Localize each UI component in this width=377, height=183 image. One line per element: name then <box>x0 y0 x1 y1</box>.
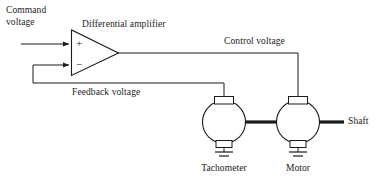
feedback-voltage-label: Feedback voltage <box>72 87 140 99</box>
tachometer-top-terminal <box>215 97 234 105</box>
diagram-canvas: Command voltage Differential amplifier C… <box>0 0 377 183</box>
motor-bottom-terminal <box>290 141 306 148</box>
differential-amplifier-label: Differential amplifier <box>82 19 166 31</box>
command-voltage-label-line2: voltage <box>6 17 35 27</box>
command-voltage-label-line1: Command <box>6 5 46 15</box>
control-voltage-label: Control voltage <box>224 36 285 48</box>
motor-body <box>277 101 320 144</box>
motor-label: Motor <box>286 163 310 175</box>
block-diagram-svg <box>0 0 377 183</box>
tachometer-bottom-terminal <box>216 141 232 148</box>
command-voltage-label: Command voltage <box>6 5 46 28</box>
feedback-voltage-wire <box>33 65 224 83</box>
tachometer-body <box>203 101 246 144</box>
control-voltage-wire <box>119 53 299 100</box>
tachometer-label: Tachometer <box>201 163 247 175</box>
shaft-label: Shaft <box>348 116 369 128</box>
amplifier-plus-sign: + <box>76 38 82 49</box>
amplifier-minus-sign: − <box>76 59 82 70</box>
motor-top-terminal <box>289 97 308 105</box>
